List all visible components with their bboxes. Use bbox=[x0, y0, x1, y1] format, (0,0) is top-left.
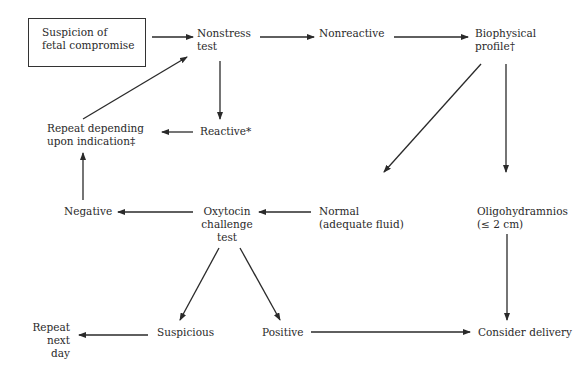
node-text-line: Negative bbox=[64, 205, 112, 218]
node-text-line: test bbox=[197, 40, 251, 53]
node-reactive: Reactive* bbox=[200, 125, 251, 138]
node-text-line: Reactive* bbox=[200, 125, 251, 138]
node-text-line: challenge bbox=[198, 218, 256, 231]
node-normal-adequate-fluid: Normal (adequate fluid) bbox=[319, 205, 404, 231]
node-text-line: Positive bbox=[262, 326, 303, 339]
node-biophysical-profile: Biophysical profile† bbox=[475, 27, 536, 53]
node-nonreactive: Nonreactive bbox=[319, 27, 384, 40]
node-suspicious: Suspicious bbox=[157, 326, 214, 339]
node-positive: Positive bbox=[262, 326, 303, 339]
node-oxytocin-challenge-test: Oxytocin challenge test bbox=[198, 205, 256, 244]
node-text-line: Nonstress bbox=[197, 27, 251, 40]
node-nonstress-test: Nonstress test bbox=[197, 27, 251, 53]
node-text-line: profile† bbox=[475, 40, 536, 53]
node-text-line: Biophysical bbox=[475, 27, 536, 40]
node-text-line: Nonreactive bbox=[319, 27, 384, 40]
node-text-line: upon indication‡ bbox=[47, 135, 144, 148]
node-text-line: Oligohydramnios bbox=[477, 205, 568, 218]
edge-oct-to-suspicious bbox=[180, 248, 219, 320]
node-repeat-depending-upon-indication: Repeat depending upon indication‡ bbox=[47, 122, 144, 148]
node-text-line: Repeat bbox=[26, 321, 70, 334]
node-text-line: (≤ 2 cm) bbox=[477, 218, 568, 231]
node-text-line: Suspicious bbox=[157, 326, 214, 339]
node-text-line: day bbox=[26, 347, 70, 360]
node-text-line: test bbox=[198, 231, 256, 244]
node-text-line: Normal bbox=[319, 205, 404, 218]
node-oligohydramnios: Oligohydramnios (≤ 2 cm) bbox=[477, 205, 568, 231]
node-negative: Negative bbox=[64, 205, 112, 218]
node-text-line: Oxytocin bbox=[198, 205, 256, 218]
edge-oct-to-positive bbox=[240, 248, 280, 320]
node-consider-delivery: Consider delivery bbox=[478, 326, 572, 339]
node-text-line: Suspicion of bbox=[42, 26, 145, 39]
node-text-line: (adequate fluid) bbox=[319, 218, 404, 231]
edge-bpp-to-normal bbox=[384, 64, 481, 172]
node-text-line: fetal compromise bbox=[42, 39, 145, 52]
node-suspicion-of-fetal-compromise: Suspicion of fetal compromise bbox=[28, 18, 146, 67]
node-text-line: next bbox=[26, 334, 70, 347]
node-repeat-next-day: Repeat next day bbox=[26, 321, 70, 360]
node-text-line: Repeat depending bbox=[47, 122, 144, 135]
node-text-line: Consider delivery bbox=[478, 326, 572, 339]
